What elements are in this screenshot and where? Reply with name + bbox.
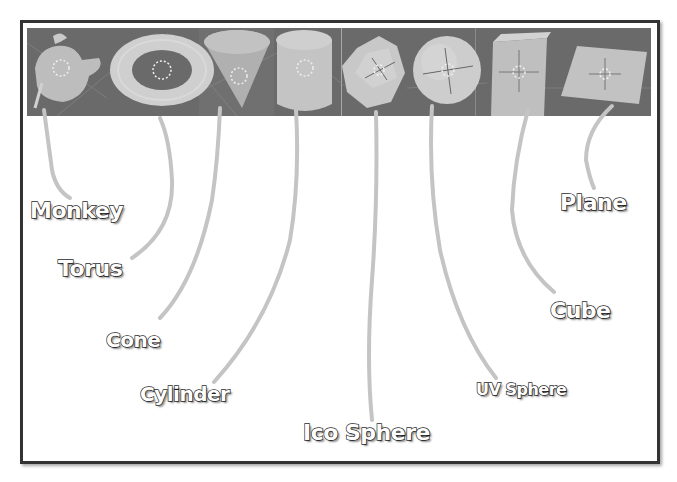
torus-mesh-icon: [110, 34, 214, 106]
label-torus: Torus: [58, 256, 122, 281]
cylinder-mesh-icon: [276, 30, 332, 111]
monkey-mesh-icon: [35, 33, 101, 108]
label-cube: Cube: [550, 298, 610, 323]
uv-sphere-mesh-icon: [413, 36, 481, 104]
primitives-render-strip: [27, 28, 651, 116]
cube-mesh-icon: [491, 32, 551, 116]
plane-mesh-icon: [561, 46, 647, 104]
label-cone: Cone: [106, 328, 160, 352]
label-monkey: Monkey: [30, 198, 123, 223]
label-ico-sphere: Ico Sphere: [303, 420, 430, 445]
label-uv-sphere: UV Sphere: [476, 380, 566, 399]
label-cylinder: Cylinder: [140, 382, 229, 406]
ico-sphere-mesh-icon: [342, 36, 405, 108]
label-plane: Plane: [560, 190, 627, 215]
viewport-grid-lines: [27, 28, 651, 116]
